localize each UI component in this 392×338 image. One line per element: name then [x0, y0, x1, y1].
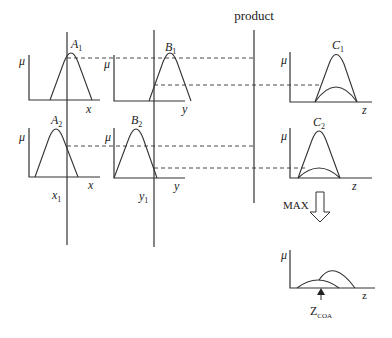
graph-b1: μ y B1 — [103, 40, 191, 116]
membership-curve-a2 — [35, 129, 78, 177]
graph-aggregate: μ z ZCOA — [280, 248, 375, 320]
fuzzy-inference-diagram: product μ x A1 μ y B1 μ z C1 μ x A2 x1 — [0, 0, 392, 338]
x1-label: x1 — [51, 188, 61, 204]
membership-curve-b1 — [149, 53, 191, 101]
b1-label: B1 — [165, 40, 176, 56]
y1-label: y1 — [138, 189, 148, 205]
zcoa-label: ZCOA — [310, 304, 332, 320]
mu-label: μ — [103, 57, 110, 71]
graph-a2: μ x A2 x1 — [18, 113, 100, 204]
graph-b2: μ y B2 y1 — [104, 113, 185, 205]
mu-label: μ — [280, 53, 287, 67]
aggregated-curve-left — [297, 280, 339, 288]
y-axis-label: y — [181, 102, 188, 116]
graph-a1: μ x A1 — [18, 37, 100, 116]
b2-label: B2 — [131, 113, 142, 129]
scaled-curve-c2 — [298, 168, 340, 178]
z-axis-label: z — [351, 179, 357, 193]
z-axis-label: z — [361, 103, 367, 117]
x-axis-label: x — [87, 178, 94, 192]
mu-label: μ — [18, 54, 25, 68]
c2-label: C2 — [313, 115, 325, 131]
membership-curve-c2 — [298, 131, 340, 178]
a1-label: A1 — [70, 37, 82, 53]
axes — [114, 55, 185, 101]
mu-label: μ — [280, 129, 287, 143]
axes — [290, 250, 375, 288]
product-label: product — [234, 8, 274, 23]
x-axis-label: x — [85, 102, 92, 116]
z-axis-label: z — [362, 289, 367, 301]
axes — [29, 128, 100, 177]
y-axis-label: y — [173, 179, 180, 193]
max-aggregation: MAX — [283, 192, 330, 222]
axes — [114, 128, 185, 178]
max-label: MAX — [283, 199, 309, 211]
mu-label: μ — [18, 130, 25, 144]
aggregated-curve-right — [319, 271, 355, 288]
membership-curve-a1 — [50, 53, 92, 100]
graph-c1: μ z C1 — [280, 38, 372, 117]
mu-label: μ — [104, 130, 111, 144]
c1-label: C1 — [332, 38, 344, 54]
scaled-curve-c1 — [315, 87, 357, 102]
mu-label: μ — [280, 248, 287, 262]
up-arrow-icon — [317, 288, 325, 295]
down-arrow-icon — [310, 192, 330, 222]
membership-curve-b2 — [114, 129, 157, 178]
a2-label: A2 — [50, 113, 62, 129]
graph-c2: μ z C2 — [280, 115, 372, 193]
